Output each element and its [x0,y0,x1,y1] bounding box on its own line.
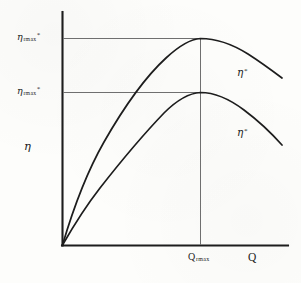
curve-eta-upper [63,39,283,246]
y-axis-title: η [24,141,31,153]
y-tick-label-lower: ηrmax* [17,86,40,97]
y-tick-upper-symbol: η [17,31,23,42]
curve-label-eta-upper: η* [237,67,248,79]
curve-label-eta-lower: η* [237,127,248,139]
chart-plot-area [0,0,301,283]
figure-container: ηrmax* ηrmax* η η* η* Qrmax Q [0,0,301,283]
y-tick-lower-symbol: η [17,85,23,96]
y-tick-upper-superscript: * [36,31,40,38]
x-tick-subscript: rmax [195,256,210,262]
y-tick-lower-subscript: rmax [23,90,37,96]
x-tick-label-q-rmax: Qrmax [188,252,210,262]
y-tick-label-upper: ηrmax* [17,32,40,43]
y-tick-lower-superscript: * [36,85,40,92]
curve-eta-lower [63,93,283,246]
x-axis-title: Q [248,252,256,264]
curve-lower-superscript: * [243,127,247,135]
curve-upper-superscript: * [243,67,247,75]
y-tick-upper-subscript: rmax [23,36,37,42]
